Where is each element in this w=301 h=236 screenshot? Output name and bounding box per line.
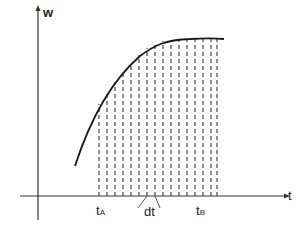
curve — [75, 38, 224, 166]
t-b-subscript: B — [200, 208, 205, 217]
dashed-lines — [99, 39, 217, 196]
y-axis-arrow-icon — [36, 5, 41, 11]
dt-bracket-right — [155, 196, 160, 208]
x-axis-label: t — [288, 189, 292, 202]
diagram-canvas — [0, 0, 301, 236]
t-a-subscript: A — [100, 208, 105, 217]
t-b-label: tB — [196, 204, 205, 217]
y-axis-label: w — [43, 6, 53, 19]
t-a-label: tA — [96, 204, 105, 217]
dt-label: dt — [144, 205, 155, 218]
